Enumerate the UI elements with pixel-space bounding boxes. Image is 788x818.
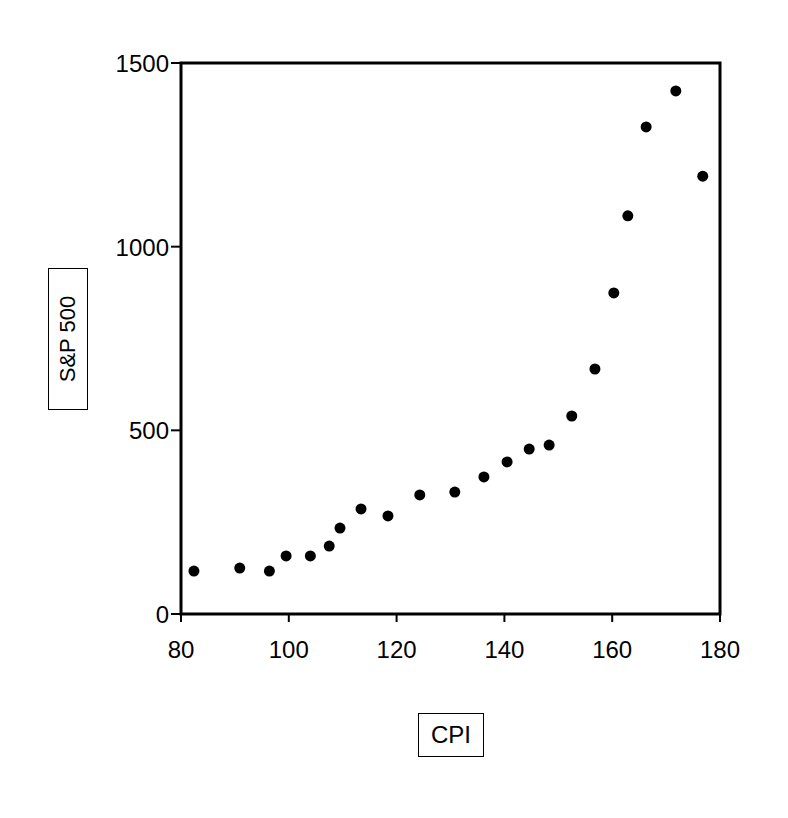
data-point bbox=[502, 456, 513, 467]
data-point bbox=[382, 510, 393, 521]
data-point bbox=[641, 121, 652, 132]
data-point bbox=[281, 550, 292, 561]
x-tick-label: 100 bbox=[269, 636, 309, 663]
data-points bbox=[188, 85, 708, 576]
data-point bbox=[478, 471, 489, 482]
data-point bbox=[544, 440, 555, 451]
y-axis-label: S&P 500 bbox=[48, 268, 88, 410]
x-tick-label: 160 bbox=[592, 636, 632, 663]
plot-frame bbox=[181, 63, 720, 614]
x-tick-label: 140 bbox=[484, 636, 524, 663]
data-point bbox=[697, 171, 708, 182]
data-point bbox=[608, 287, 619, 298]
data-point bbox=[188, 566, 199, 577]
y-tick-label: 1000 bbox=[116, 234, 169, 261]
data-point bbox=[356, 503, 367, 514]
plot-border bbox=[181, 63, 720, 614]
data-point bbox=[305, 550, 316, 561]
data-point bbox=[335, 523, 346, 534]
data-point bbox=[264, 566, 275, 577]
data-point bbox=[449, 487, 460, 498]
y-tick-label: 1500 bbox=[116, 50, 169, 77]
x-axis-label: CPI bbox=[418, 713, 484, 757]
x-axis-label-text: CPI bbox=[431, 721, 471, 749]
y-axis-label-text: S&P 500 bbox=[55, 296, 81, 382]
data-point bbox=[324, 541, 335, 552]
data-point bbox=[622, 210, 633, 221]
axis-ticks: 80100120140160180050010001500 bbox=[116, 50, 740, 663]
data-point bbox=[414, 489, 425, 500]
data-point bbox=[234, 563, 245, 574]
data-point bbox=[524, 444, 535, 455]
scatter-chart: 80100120140160180050010001500 bbox=[0, 0, 788, 818]
x-tick-label: 120 bbox=[377, 636, 417, 663]
data-point bbox=[670, 85, 681, 96]
y-tick-label: 500 bbox=[129, 417, 169, 444]
data-point bbox=[589, 363, 600, 374]
x-tick-label: 80 bbox=[168, 636, 195, 663]
data-point bbox=[566, 411, 577, 422]
y-tick-label: 0 bbox=[156, 601, 169, 628]
x-tick-label: 180 bbox=[700, 636, 740, 663]
